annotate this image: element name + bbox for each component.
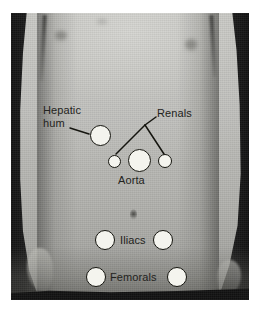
iliac-right-site[interactable] xyxy=(153,230,173,250)
renal-left-site[interactable] xyxy=(108,155,121,168)
hip-highlight-left xyxy=(27,248,53,290)
femorals-label: Femorals xyxy=(110,271,157,284)
skin-mark-upper-left xyxy=(55,31,67,40)
aorta-site[interactable] xyxy=(128,149,151,172)
figure-root: Hepatic hum Renals Aorta Iliacs Femorals xyxy=(0,0,265,313)
skin-mark-upper-center xyxy=(97,19,107,24)
renals-label: Renals xyxy=(157,107,192,120)
skin-mark-upper-right xyxy=(185,39,197,50)
femoral-left-site[interactable] xyxy=(86,267,106,287)
hepatic-hum-label: Hepatic hum xyxy=(43,104,81,129)
hepatic-hum-site[interactable] xyxy=(90,125,111,146)
iliacs-label: Iliacs xyxy=(120,234,146,247)
aorta-label: Aorta xyxy=(118,174,145,187)
iliac-left-site[interactable] xyxy=(95,230,115,250)
femoral-right-site[interactable] xyxy=(167,267,187,287)
umbilicus xyxy=(130,209,137,220)
renal-right-site[interactable] xyxy=(158,154,172,168)
